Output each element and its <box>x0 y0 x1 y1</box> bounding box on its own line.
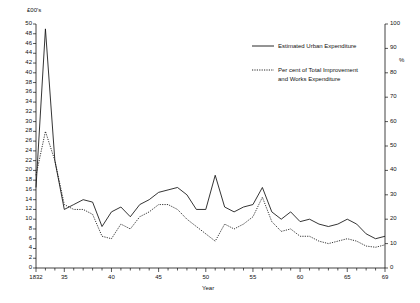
left-tick-16: 16 <box>8 186 32 192</box>
right-tick-60: 60 <box>390 118 397 124</box>
left-tick-10: 10 <box>8 215 32 221</box>
left-tick-18: 18 <box>8 176 32 182</box>
plot-canvas <box>0 0 420 303</box>
left-tick-26: 26 <box>8 137 32 143</box>
left-tick-44: 44 <box>8 49 32 55</box>
x-tick-40: 40 <box>102 274 120 280</box>
left-tick-4: 4 <box>8 244 32 250</box>
right-tick-30: 30 <box>390 191 397 197</box>
left-tick-8: 8 <box>8 225 32 231</box>
left-tick-20: 20 <box>8 166 32 172</box>
x-tick-45: 45 <box>150 274 168 280</box>
left-tick-14: 14 <box>8 196 32 202</box>
right-tick-100: 100 <box>390 20 400 26</box>
x-tick-35: 35 <box>55 274 73 280</box>
right-tick-0: 0 <box>390 264 393 270</box>
x-tick-69: 69 <box>376 274 394 280</box>
right-tick-50: 50 <box>390 142 397 148</box>
right-tick-80: 80 <box>390 69 397 75</box>
left-tick-36: 36 <box>8 88 32 94</box>
left-tick-2: 2 <box>8 254 32 260</box>
x-tick-55: 55 <box>244 274 262 280</box>
left-tick-40: 40 <box>8 69 32 75</box>
left-tick-48: 48 <box>8 30 32 36</box>
x-tick-50: 50 <box>197 274 215 280</box>
left-tick-0: 0 <box>8 264 32 270</box>
left-tick-50: 50 <box>8 20 32 26</box>
x-tick-60: 60 <box>291 274 309 280</box>
x-tick-1832: 1832 <box>27 274 45 280</box>
right-tick-40: 40 <box>390 166 397 172</box>
x-tick-65: 65 <box>338 274 356 280</box>
left-tick-22: 22 <box>8 157 32 163</box>
chart-figure: £00's % Year Estimated Urban Expenditure… <box>0 0 420 303</box>
series-line-1 <box>36 131 385 247</box>
left-tick-30: 30 <box>8 118 32 124</box>
right-tick-20: 20 <box>390 215 397 221</box>
left-tick-38: 38 <box>8 79 32 85</box>
left-tick-24: 24 <box>8 147 32 153</box>
left-tick-34: 34 <box>8 98 32 104</box>
left-tick-6: 6 <box>8 235 32 241</box>
left-tick-28: 28 <box>8 127 32 133</box>
left-tick-32: 32 <box>8 108 32 114</box>
left-tick-46: 46 <box>8 40 32 46</box>
left-tick-42: 42 <box>8 59 32 65</box>
left-tick-12: 12 <box>8 205 32 211</box>
right-tick-90: 90 <box>390 44 397 50</box>
right-tick-70: 70 <box>390 93 397 99</box>
series-line-0 <box>36 29 385 239</box>
right-tick-10: 10 <box>390 240 397 246</box>
